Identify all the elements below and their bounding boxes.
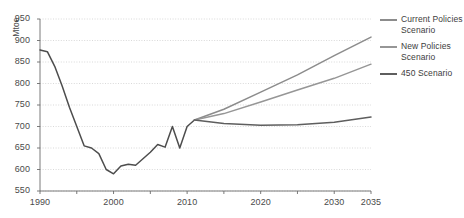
x-tick-label: 2010 — [167, 197, 207, 207]
x-tick-label: 2035 — [351, 197, 391, 207]
chart-figure: Mtoe 550600650700750800850900950 1990200… — [0, 0, 464, 218]
y-tick-label: 700 — [4, 121, 30, 131]
x-tick-label: 2000 — [94, 197, 134, 207]
x-tick-label: 1990 — [20, 197, 60, 207]
y-tick-label: 650 — [4, 142, 30, 152]
y-tick-label: 950 — [4, 13, 30, 23]
y-tick-label: 800 — [4, 78, 30, 88]
series-line — [194, 64, 371, 120]
series-line — [40, 50, 194, 174]
legend-label: Current Policies Scenario — [401, 14, 464, 35]
legend-color-swatch — [380, 73, 397, 75]
series-line — [194, 37, 371, 120]
y-tick-label: 600 — [4, 164, 30, 174]
x-tick-label: 2030 — [314, 197, 354, 207]
chart-legend: Current Policies ScenarioNew Policies Sc… — [380, 14, 464, 86]
x-tick-label: 2020 — [241, 197, 281, 207]
y-tick-label: 850 — [4, 56, 30, 66]
legend-item[interactable]: 450 Scenario — [380, 68, 464, 80]
gridlines-group — [40, 19, 371, 191]
data-series-group — [40, 37, 371, 174]
legend-label: New Policies Scenario — [401, 41, 464, 62]
y-tick-label: 750 — [4, 99, 30, 109]
y-tick-label: 900 — [4, 35, 30, 45]
legend-color-swatch — [380, 46, 397, 48]
legend-item[interactable]: Current Policies Scenario — [380, 14, 464, 35]
legend-item[interactable]: New Policies Scenario — [380, 41, 464, 62]
series-line — [194, 117, 371, 125]
legend-color-swatch — [380, 19, 397, 21]
y-tick-label: 550 — [4, 185, 30, 195]
legend-label: 450 Scenario — [401, 68, 464, 79]
